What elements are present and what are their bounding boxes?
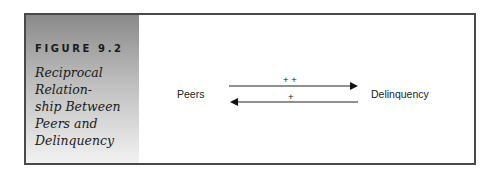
- arrow-delinquency-to-peers-icon: [230, 98, 358, 106]
- arrow-peers-to-delinquency-icon: [229, 82, 358, 90]
- arrows: [0, 0, 494, 177]
